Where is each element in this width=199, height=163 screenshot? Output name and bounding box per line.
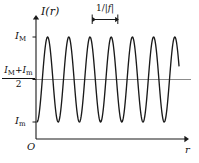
- mean-denominator: 2: [2, 79, 35, 89]
- tick-label-mean: IM+Im 2: [2, 66, 35, 89]
- origin-label: O: [27, 142, 35, 152]
- x-axis-label: r: [185, 145, 190, 155]
- tick-label-imin: Im: [15, 116, 26, 128]
- intensity-vs-radius-figure: I(r) r O IM Im IM+Im 2 1/|f|: [0, 0, 199, 163]
- mean-num-plus: +: [15, 65, 23, 75]
- imax-subscript: M: [19, 35, 26, 43]
- period-suffix: |: [111, 3, 114, 13]
- period-prefix: 1/|: [96, 3, 108, 13]
- mean-num-first-subscript: M: [8, 69, 15, 77]
- mean-num-second-subscript: m: [26, 69, 33, 77]
- mean-numerator: IM+Im: [2, 66, 35, 79]
- y-axis-label: I(r): [41, 6, 59, 17]
- period-annotation-label: 1/|f|: [88, 4, 122, 13]
- imin-subscript: m: [19, 120, 26, 128]
- tick-label-imax: IM: [15, 31, 26, 43]
